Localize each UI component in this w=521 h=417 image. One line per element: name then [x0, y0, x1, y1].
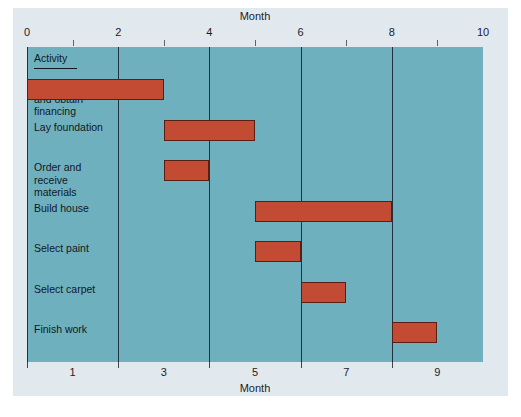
activity-header-rule	[34, 68, 77, 69]
top-tick-label-2: 2	[115, 26, 121, 38]
top-tick-label-8: 8	[389, 26, 395, 38]
bottom-tick-label-5: 5	[252, 366, 258, 378]
task-bar	[255, 241, 301, 262]
top-axis-title: Month	[27, 10, 483, 22]
top-tick-label-10: 10	[477, 26, 489, 38]
tick-mark-month-5	[255, 40, 256, 46]
task-bar	[301, 282, 347, 303]
bottom-tick-label-7: 7	[343, 366, 349, 378]
task-label: Finish work	[34, 323, 126, 336]
tick-mark-month-3	[164, 40, 165, 46]
top-axis-tick-labels: 0246810	[0, 26, 521, 42]
task-bar	[164, 160, 210, 181]
task-label: Order andreceivematerials	[34, 161, 126, 199]
gridline-month-4	[209, 47, 210, 362]
gantt-chart-figure: Month 0246810 Activity Design houseand o…	[0, 0, 521, 417]
task-bar	[164, 120, 255, 141]
gridline-month-8	[392, 47, 393, 362]
task-label: Select carpet	[34, 283, 126, 296]
bottom-tick-label-3: 3	[161, 366, 167, 378]
tick-mark-month-9	[437, 40, 438, 46]
task-label: Build house	[34, 202, 126, 215]
top-tick-label-0: 0	[24, 26, 30, 38]
task-bar	[392, 322, 438, 343]
task-bar	[255, 201, 392, 222]
bottom-axis-tick-labels: 13579	[0, 366, 521, 382]
plot-area: Activity Design houseand obtainfinancing…	[27, 47, 483, 362]
bottom-axis-title: Month	[27, 382, 483, 394]
task-bar	[27, 79, 164, 100]
tick-mark-month-1	[73, 40, 74, 46]
top-tick-label-6: 6	[298, 26, 304, 38]
activity-column-header: Activity	[34, 52, 67, 64]
task-label: Lay foundation	[34, 121, 126, 134]
task-label: Select paint	[34, 242, 126, 255]
bottom-tick-label-9: 9	[434, 366, 440, 378]
tick-mark-month-7	[346, 40, 347, 46]
top-tick-label-4: 4	[206, 26, 212, 38]
bottom-tick-label-1: 1	[70, 366, 76, 378]
